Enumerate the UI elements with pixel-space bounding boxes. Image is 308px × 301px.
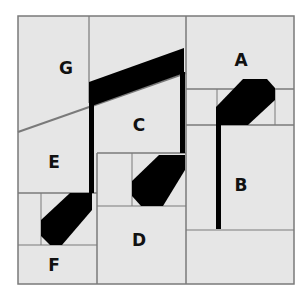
piece-label-b: B: [235, 177, 248, 194]
left-note-stem: [89, 105, 94, 193]
b-note-stem: [216, 125, 221, 229]
right-note-stem: [180, 72, 185, 153]
piece-label-g: G: [59, 60, 73, 77]
piece-label-a: A: [234, 52, 247, 69]
piece-label-e: E: [48, 154, 60, 171]
puzzle-graphic: [0, 0, 308, 301]
note-puzzle-diagram: G A C E B D F: [0, 0, 308, 301]
piece-label-f: F: [48, 257, 60, 274]
piece-label-d: D: [132, 232, 146, 249]
piece-label-c: C: [133, 117, 145, 134]
